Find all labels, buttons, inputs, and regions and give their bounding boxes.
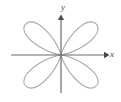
x-axis-label: x bbox=[110, 50, 114, 59]
rose-curve-figure: y x bbox=[0, 0, 121, 102]
y-axis-label: y bbox=[61, 3, 65, 12]
rose-petal-upper-left bbox=[24, 22, 61, 55]
y-axis-arrowhead-icon bbox=[58, 15, 64, 21]
rose-curve-plot bbox=[0, 0, 121, 102]
rose-petal-lower-left bbox=[24, 55, 61, 88]
x-axis-arrowhead-icon bbox=[104, 52, 110, 58]
rose-petal-lower-right bbox=[61, 55, 98, 88]
rose-petal-upper-right bbox=[61, 22, 98, 55]
